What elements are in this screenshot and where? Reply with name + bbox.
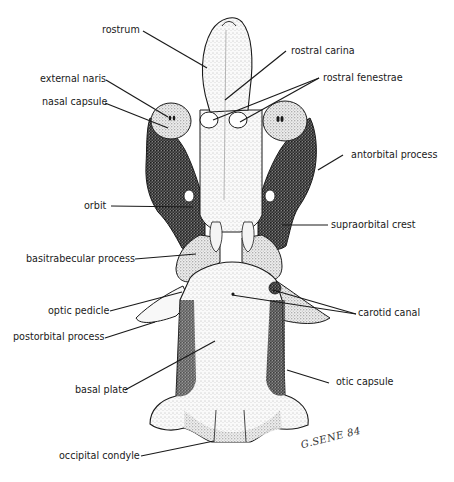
label-carotid-canal: carotid canal (358, 307, 420, 319)
label-occipital-condyle: occipital condyle (59, 450, 140, 462)
label-rostral-fenestrae: rostral fenestrae (323, 72, 403, 84)
label-basitrabecular-process: basitrabecular process (26, 253, 135, 265)
label-external-naris: external naris (40, 73, 106, 85)
label-otic-capsule: otic capsule (336, 376, 394, 388)
label-antorbital-process: antorbital process (351, 149, 438, 161)
label-basal-plate: basal plate (75, 384, 128, 396)
label-rostral-carina: rostral carina (291, 45, 355, 57)
label-optic-pedicle: optic pedicle (48, 305, 109, 317)
label-orbit: orbit (84, 200, 106, 212)
label-postorbital-process: postorbital process (13, 331, 105, 343)
label-rostrum: rostrum (102, 24, 140, 36)
rostral-fenestra-left (200, 112, 218, 128)
label-supraorbital-crest: supraorbital crest (331, 219, 416, 231)
label-nasal-capsule: nasal capsule (42, 96, 107, 108)
nasal-capsule-right (263, 101, 307, 141)
nasal-capsule-left (151, 103, 191, 139)
